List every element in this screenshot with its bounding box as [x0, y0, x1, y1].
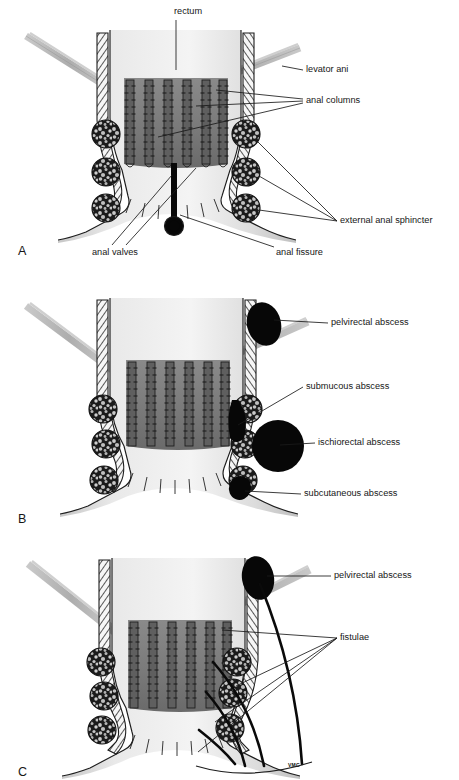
panel-letter-a: A [18, 244, 27, 258]
label-anal-valves: anal valves [92, 247, 138, 257]
label-anal-fissure: anal fissure [276, 247, 323, 257]
anal-canal-mucosa [124, 78, 228, 168]
label-pelvirectal-abscess: pelvirectal abscess [331, 317, 409, 327]
label-submucous-abscess: submucous abscess [306, 381, 390, 391]
label-anal-columns: anal columns [306, 95, 361, 105]
ischiorectal-abscess [252, 420, 304, 472]
label-external-anal-sphincter: external anal sphincter [340, 215, 432, 225]
panel-letter-b: B [18, 512, 26, 526]
artist-signature: VMC [288, 762, 300, 768]
label-subcutaneous-abscess: subcutaneous abscess [304, 488, 398, 498]
label-rectum: rectum [174, 6, 202, 16]
label-levator-ani: levator ani [306, 64, 348, 74]
anorectal-figure: rectum levator ani anal columns external… [0, 0, 459, 780]
panel-letter-c: C [18, 765, 27, 779]
label-fistulae: fistulae [340, 632, 369, 642]
label-ischiorectal-abscess: ischiorectal abscess [318, 437, 401, 447]
anal-canal-mucosa [126, 360, 230, 450]
label-pelvirectal-abscess: pelvirectal abscess [334, 570, 412, 580]
